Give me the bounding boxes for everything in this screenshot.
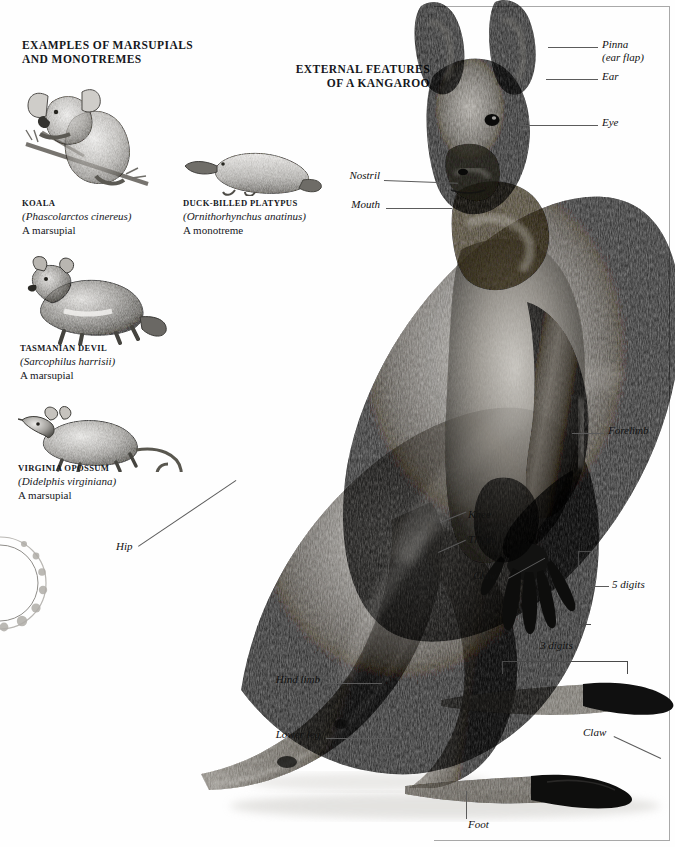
koala-illustration xyxy=(22,82,152,190)
label-hind-limb-text: Hind limb xyxy=(276,673,320,685)
section-heading-marsupials-line1: EXAMPLES OF MARSUPIALS xyxy=(22,39,193,51)
caption-virginia-opossum-group: A marsupial xyxy=(18,489,116,502)
bracket-3-digits xyxy=(502,661,628,674)
leader-hind-limb xyxy=(326,683,382,684)
caption-koala-group: A marsupial xyxy=(22,224,131,237)
label-foot-text: Foot xyxy=(468,818,489,830)
leader-mouth xyxy=(386,208,452,209)
label-5-digits-text: 5 digits xyxy=(612,578,645,590)
caption-tasmanian-devil-latin: (Sarcophilus harrisii) xyxy=(20,355,115,368)
label-thigh: Thigh xyxy=(468,533,494,546)
caption-platypus-latin: (Ornithorhynchus anatinus) xyxy=(183,210,306,223)
caption-platypus-group: A monotreme xyxy=(183,224,306,237)
caption-platypus: DUCK-BILLED PLATYPUS (Ornithorhynchus an… xyxy=(183,197,306,237)
caption-koala-latin: (Phascolarctos cinereus) xyxy=(22,210,131,223)
caption-tasmanian-devil-group: A marsupial xyxy=(20,369,115,382)
label-thigh-text: Thigh xyxy=(468,533,494,545)
label-hind-limb: Hind limb xyxy=(238,673,320,686)
encyclopedia-page: EXAMPLES OF MARSUPIALS AND MONOTREMES EX… xyxy=(0,0,675,847)
label-3-digits-text: 3 digits xyxy=(540,639,573,651)
tasmanian-devil-illustration xyxy=(20,255,170,345)
label-lower-leg-text: Lower leg xyxy=(276,728,320,740)
decorative-ornament xyxy=(0,528,76,638)
label-lower-leg: Lower leg xyxy=(236,728,320,741)
leader-pinna xyxy=(548,47,598,48)
label-knee-text: Knee xyxy=(468,508,491,520)
caption-koala: KOALA (Phascolarctos cinereus) A marsupi… xyxy=(22,197,131,237)
leader-lower-leg xyxy=(326,738,394,739)
label-foot: Foot xyxy=(468,818,489,831)
label-5-digits: 5 digits xyxy=(612,578,645,591)
caption-virginia-opossum-latin: (Didelphis virginiana) xyxy=(18,475,116,488)
leader-3-digits xyxy=(564,652,565,662)
label-claw-foot: Claw xyxy=(583,726,606,739)
label-nostril: Nostril xyxy=(318,169,380,182)
bracket-5-digits xyxy=(578,551,591,625)
leader-eye xyxy=(520,125,598,126)
label-claw-hand-text: Claw xyxy=(473,569,496,581)
caption-koala-common: KOALA xyxy=(22,197,131,210)
label-ear-text: Ear xyxy=(602,70,619,82)
label-hip: Hip xyxy=(116,540,133,553)
caption-virginia-opossum-common: VIRGINIA OPOSSUM xyxy=(18,462,116,475)
caption-tasmanian-devil: TASMANIAN DEVIL (Sarcophilus harrisii) A… xyxy=(20,342,115,382)
section-heading-marsupials-line2: AND MONOTREMES xyxy=(22,53,142,65)
label-pinna-line1: Pinna xyxy=(602,38,628,50)
label-claw-hand: Claw xyxy=(473,569,496,582)
leader-5-digits xyxy=(590,586,609,587)
label-pinna: Pinna (ear flap) xyxy=(602,38,644,64)
label-eye: Eye xyxy=(602,116,618,129)
label-mouth-text: Mouth xyxy=(351,198,380,210)
leader-forelimb xyxy=(572,433,604,434)
label-ear: Ear xyxy=(602,70,619,83)
caption-platypus-common: DUCK-BILLED PLATYPUS xyxy=(183,197,306,210)
label-forelimb: Forelimb xyxy=(608,424,649,437)
label-nostril-text: Nostril xyxy=(349,169,380,181)
platypus-illustration xyxy=(183,140,323,196)
label-knee: Knee xyxy=(468,508,491,521)
label-forelimb-text: Forelimb xyxy=(608,424,649,436)
label-3-digits: 3 digits xyxy=(540,639,573,652)
label-claw-foot-text: Claw xyxy=(583,726,606,738)
section-heading-marsupials: EXAMPLES OF MARSUPIALS AND MONOTREMES xyxy=(22,38,193,66)
leader-ear xyxy=(546,79,598,80)
label-mouth: Mouth xyxy=(316,198,380,211)
label-hip-text: Hip xyxy=(116,540,133,552)
caption-tasmanian-devil-common: TASMANIAN DEVIL xyxy=(20,342,115,355)
label-eye-text: Eye xyxy=(602,116,618,128)
label-pinna-line2: (ear flap) xyxy=(602,51,644,63)
caption-virginia-opossum: VIRGINIA OPOSSUM (Didelphis virginiana) … xyxy=(18,462,116,502)
leader-foot xyxy=(466,791,467,819)
